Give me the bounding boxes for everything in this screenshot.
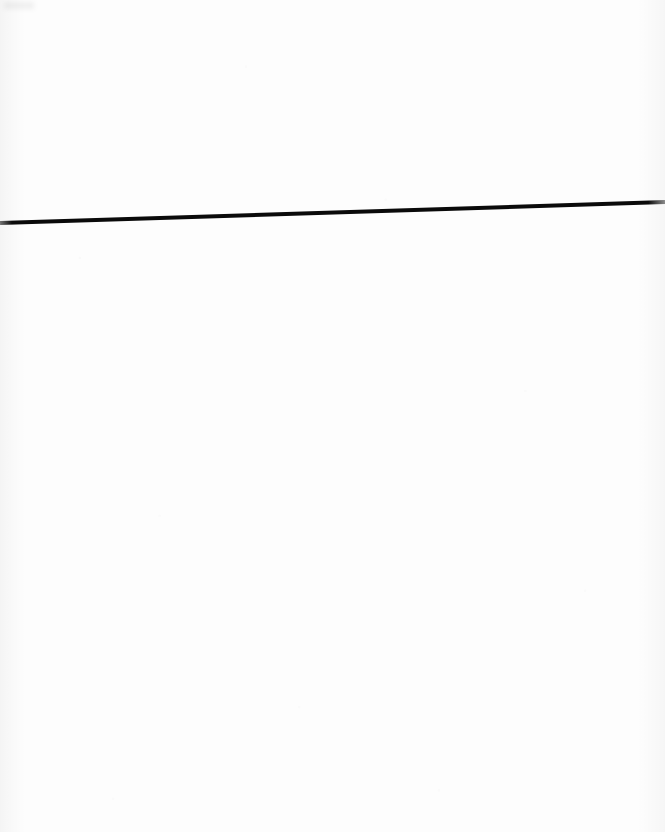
rule-line-layer	[0, 0, 665, 832]
rule-line-canvas	[0, 0, 665, 832]
horizontal-rule-line	[0, 202, 665, 223]
left-edge-scan-shadow	[0, 0, 26, 832]
right-edge-scan-shadow	[635, 0, 665, 832]
scanned-page	[0, 0, 665, 832]
top-left-corner-smudge	[4, 2, 34, 9]
